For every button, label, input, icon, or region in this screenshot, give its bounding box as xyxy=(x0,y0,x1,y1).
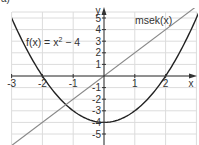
y-tick-label: -3 xyxy=(92,105,101,116)
y-tick-label: 1 xyxy=(95,59,101,70)
x-axis-label: x xyxy=(189,78,194,89)
x-tick-label: 2 xyxy=(163,78,169,89)
y-tick-label: 4 xyxy=(95,24,101,35)
x-tick-label: -2 xyxy=(38,78,47,89)
x-tick-label: -3 xyxy=(7,78,16,89)
x-tick-label: -1 xyxy=(69,78,78,89)
y-tick-label: -1 xyxy=(92,82,101,93)
secant-label: msek(x) xyxy=(135,14,172,26)
y-tick-label: -4 xyxy=(92,117,101,128)
function-graph: -3-2-11254321-1-2-3-4-5xyf(x) = x2 − 4ms… xyxy=(0,0,199,145)
y-tick-label: 3 xyxy=(95,36,101,47)
y-axis-arrow-icon xyxy=(102,7,107,15)
y-tick-label: 2 xyxy=(95,47,101,58)
y-tick-label: -2 xyxy=(92,94,101,105)
y-tick-label: -5 xyxy=(92,129,101,140)
y-axis-label: y xyxy=(96,5,101,16)
x-tick-label: 1 xyxy=(132,78,138,89)
parabola-label: f(x) = x2 − 4 xyxy=(26,36,80,48)
